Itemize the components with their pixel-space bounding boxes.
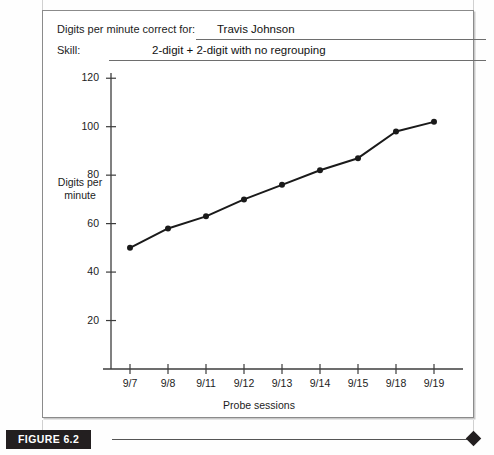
caption-rule — [112, 439, 469, 440]
data-point — [431, 119, 437, 125]
figure-page: Digits per minute correct for: Travis Jo… — [0, 0, 494, 455]
x-axis-tick-label: 9/19 — [414, 377, 454, 389]
y-axis-tick-label: 100 — [69, 120, 99, 132]
x-axis-tick-label: 9/13 — [262, 377, 302, 389]
data-point — [279, 182, 285, 188]
data-point — [317, 167, 323, 173]
y-axis-tick-label: 20 — [69, 314, 99, 326]
x-axis-tick-label: 9/7 — [110, 377, 150, 389]
y-axis-tick-label: 120 — [69, 71, 99, 83]
data-points — [127, 119, 437, 251]
x-axis-tick-label: 9/8 — [148, 377, 188, 389]
data-point — [203, 213, 209, 219]
data-point — [127, 245, 133, 251]
x-axis-tick-label: 9/14 — [300, 377, 340, 389]
figure-frame: Digits per minute correct for: Travis Jo… — [42, 10, 474, 418]
data-point — [241, 196, 247, 202]
chart-canvas — [43, 11, 475, 419]
y-axis-tick-label: 60 — [69, 217, 99, 229]
y-axis-tick-label: 80 — [69, 168, 99, 180]
figure-number-tag: FIGURE 6.2 — [6, 430, 91, 449]
x-axis-tick-label: 9/11 — [186, 377, 226, 389]
data-point — [355, 155, 361, 161]
chart-axes — [103, 73, 463, 369]
figure-caption-bar: FIGURE 6.2 — [6, 430, 488, 449]
x-axis-tick-label: 9/15 — [338, 377, 378, 389]
y-axis-tick-label: 40 — [69, 265, 99, 277]
data-point — [393, 129, 399, 135]
line-chart: 20406080100120 9/79/89/119/129/139/149/1… — [43, 11, 475, 419]
x-axis-tick-label: 9/12 — [224, 377, 264, 389]
x-axis-tick-label: 9/18 — [376, 377, 416, 389]
caption-diamond-icon — [466, 431, 482, 447]
data-point — [165, 225, 171, 231]
